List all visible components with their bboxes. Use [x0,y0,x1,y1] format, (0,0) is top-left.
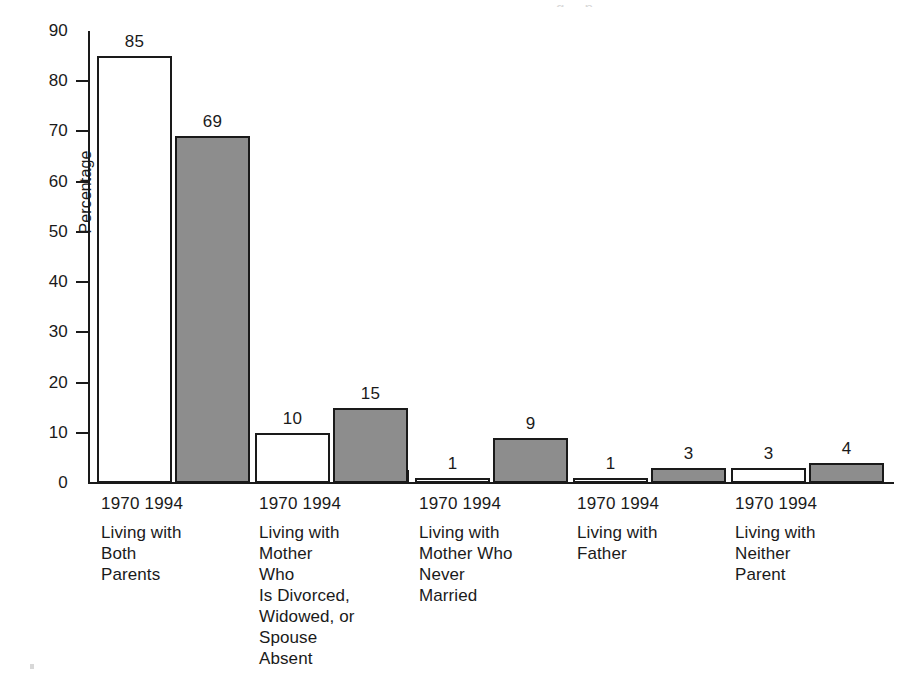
group-caption-line: Absent [259,648,355,669]
bar-value-label: 69 [175,113,250,130]
bar-value-label: 15 [333,385,408,402]
group-caption-line: Parent [735,564,815,585]
y-axis-title: Percentage [78,112,94,272]
y-axis-tick-mark [76,231,89,233]
group-caption-line: Living with [577,522,657,543]
bar-value-label: 1 [573,455,648,472]
y-axis-tick-label: 20 [26,374,68,391]
group-years-label: 1970 1994 [735,494,817,514]
group-caption-line: Married [419,585,513,606]
cropped-header-artifact: g , p [556,0,595,7]
group-caption-line: Spouse [259,627,355,648]
bar-1970-group-5 [731,468,806,483]
bar-1994-group-1 [175,136,250,483]
group-years-label: 1970 1994 [419,494,501,514]
y-axis-tick-label: 30 [26,323,68,340]
group-caption-line: Is Divorced, [259,585,355,606]
group-caption-line: Who [259,564,355,585]
y-axis-tick-label: 80 [26,72,68,89]
group-caption-line: Both [101,543,181,564]
group-caption-line: Neither [735,543,815,564]
y-axis-tick-label: 70 [26,122,68,139]
bar-1994-group-4 [651,468,726,483]
group-caption-line: Living with [101,522,181,543]
group-caption-line: Widowed, or [259,606,355,627]
bar-1970-group-4 [573,478,648,483]
y-axis-tick-label: 0 [26,474,68,491]
group-years-label: 1970 1994 [577,494,659,514]
bar-1970-group-2 [255,433,330,483]
y-axis-tick-label: 90 [26,22,68,39]
bar-value-label: 9 [493,415,568,432]
bar-1994-group-5 [809,463,884,483]
group-caption-line: Mother [259,543,355,564]
y-axis-tick-mark [76,130,89,132]
group-caption: Living withBothParents [101,522,181,585]
bar-value-label: 3 [651,445,726,462]
y-axis-tick-mark [76,181,89,183]
group-caption-line: Never [419,564,513,585]
y-axis-line [88,31,90,484]
bar-1994-group-2 [333,408,408,483]
bar-1994-group-3 [493,438,568,483]
bar-value-label: 4 [809,440,884,457]
group-years-label: 1970 1994 [259,494,341,514]
y-axis-tick-label: 50 [26,223,68,240]
y-axis-tick-mark [76,331,89,333]
bar-1970-group-1 [97,56,172,483]
group-caption-line: Living with [259,522,355,543]
group-years-label: 1970 1994 [101,494,183,514]
bar-1970-group-3 [415,478,490,483]
bar-chart-figure: g , p Percentage 9080706050403020100 851… [0,0,906,699]
y-axis-tick-label: 60 [26,173,68,190]
group-caption-line: Father [577,543,657,564]
group-caption: Living withMotherWhoIs Divorced,Widowed,… [259,522,355,669]
group-caption-line: Mother Who [419,543,513,564]
bar-value-label: 85 [97,33,172,50]
group-caption-line: Parents [101,564,181,585]
y-axis-tick-mark [76,80,89,82]
y-axis-tick-mark [76,281,89,283]
bar-value-label: 10 [255,410,330,427]
group-caption-line: Living with [419,522,513,543]
group-caption-line: Living with [735,522,815,543]
group-caption: Living withNeitherParent [735,522,815,585]
group-caption: Living withFather [577,522,657,564]
group-caption: Living withMother WhoNeverMarried [419,522,513,606]
y-axis-tick-label: 10 [26,424,68,441]
y-axis-tick-mark [76,432,89,434]
page-speck-artifact [30,664,34,669]
bar-value-label: 3 [731,445,806,462]
y-axis-tick-label: 40 [26,273,68,290]
y-axis-tick-mark [76,382,89,384]
bar-value-label: 1 [415,455,490,472]
